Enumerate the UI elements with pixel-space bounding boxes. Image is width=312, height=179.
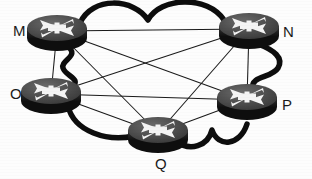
- node-label-n: N: [283, 24, 294, 39]
- node-label-m: M: [13, 23, 26, 38]
- router-icon-m[interactable]: [27, 15, 87, 51]
- thick-link-o-q: [68, 106, 134, 138]
- node-label-p: P: [282, 97, 292, 112]
- thick-link-n-p: [253, 44, 280, 88]
- router-icon-o[interactable]: [21, 78, 81, 114]
- router-icon-n[interactable]: [219, 13, 279, 49]
- thick-link-m-n: [80, 2, 224, 23]
- network-topology-canvas: [0, 0, 312, 179]
- node-label-o: O: [10, 86, 22, 101]
- router-icon-p[interactable]: [217, 84, 277, 120]
- router-icon-q[interactable]: [128, 117, 188, 153]
- node-label-q: Q: [155, 156, 167, 171]
- network-diagram: M N O P Q: [0, 0, 312, 179]
